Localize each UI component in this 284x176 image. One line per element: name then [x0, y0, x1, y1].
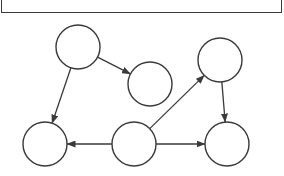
graph-canvas — [0, 0, 284, 176]
edge-n1-to-n2 — [98, 57, 131, 74]
node-n3 — [198, 38, 242, 82]
edge-n3-to-n6 — [222, 82, 225, 122]
node-n6 — [205, 122, 249, 166]
node-n2 — [128, 62, 172, 106]
node-n4 — [23, 122, 67, 166]
edge-n1-to-n4 — [52, 68, 71, 123]
node-n5 — [112, 122, 156, 166]
node-n1 — [56, 25, 100, 69]
nodes-group — [23, 25, 249, 166]
